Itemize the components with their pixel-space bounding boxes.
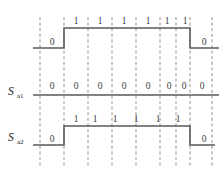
signal-label-sa2-subscript: a2 (17, 138, 24, 146)
timing-diagram-canvas: 0 1 1 1 1 1 1 0 S a1 0 0 0 0 0 0 0 0 S a… (0, 0, 221, 173)
bit-label: 1 (93, 114, 98, 124)
bit-label: 1 (183, 16, 188, 26)
bit-label: 0 (202, 134, 207, 144)
bit-label: 0 (98, 81, 103, 91)
bit-label: 0 (122, 81, 127, 91)
bit-label: 0 (50, 37, 55, 47)
bit-label: 0 (167, 81, 172, 91)
bit-label: 1 (74, 16, 79, 26)
bit-label: 0 (74, 81, 79, 91)
bit-label: 1 (74, 114, 79, 124)
timing-diagram: 0 1 1 1 1 1 1 0 S a1 0 0 0 0 0 0 0 0 S a… (0, 0, 221, 173)
bit-label: 0 (202, 37, 207, 47)
signal-label-sa2: S (8, 131, 14, 143)
bit-label: 1 (165, 16, 170, 26)
bit-label: 1 (176, 114, 181, 124)
bit-label: 1 (98, 16, 103, 26)
bit-label: 1 (146, 16, 151, 26)
waveform-path-sa2 (33, 126, 215, 145)
signal-label-sa1-subscript: a1 (17, 92, 24, 100)
waveform-path-top (33, 28, 219, 48)
bit-label: 0 (182, 81, 187, 91)
signal-trace-top: 0 1 1 1 1 1 1 0 (33, 16, 219, 48)
bit-label: 1 (113, 114, 118, 124)
bit-label: 0 (146, 81, 151, 91)
bit-label: 0 (50, 134, 55, 144)
bit-label: 0 (50, 81, 55, 91)
bit-label: 1 (122, 16, 127, 26)
gridline-group (40, 17, 212, 168)
bit-label: 1 (156, 114, 161, 124)
bit-label: 0 (200, 81, 205, 91)
signal-label-sa1: S (8, 85, 14, 97)
bit-label: 1 (134, 114, 139, 124)
